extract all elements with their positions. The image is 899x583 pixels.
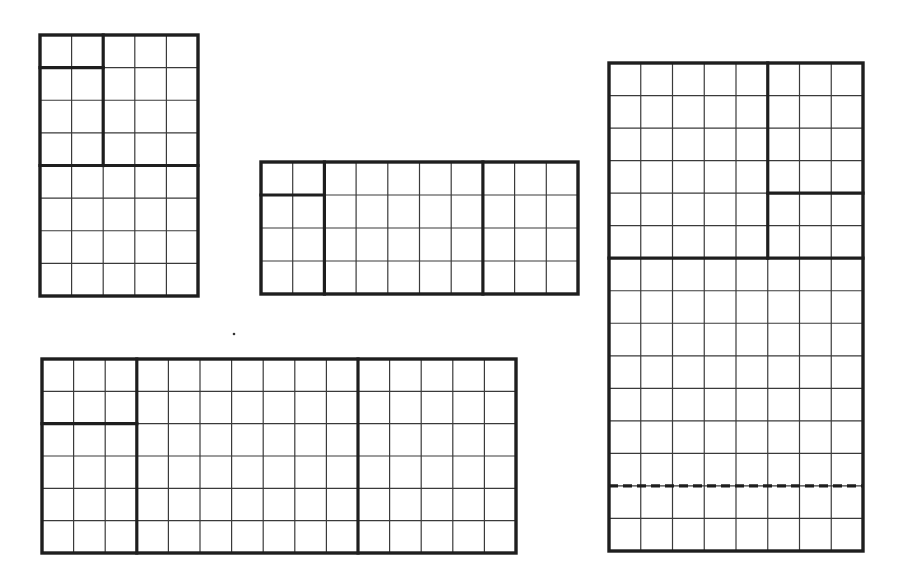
- grid-diagram-canvas: [0, 0, 899, 583]
- decorations-layer: [233, 333, 236, 336]
- grid-15x6: [42, 359, 516, 553]
- grids-layer: [40, 35, 863, 553]
- grid-8x15: [609, 63, 863, 551]
- grid-10x4: [261, 162, 578, 294]
- grid-5x8: [40, 35, 198, 296]
- stray-dot: [233, 333, 236, 336]
